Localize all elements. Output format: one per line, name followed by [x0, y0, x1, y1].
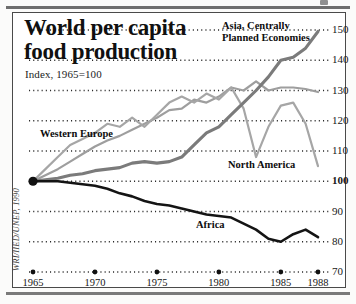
series-label-western-europe: Western Europe: [40, 128, 113, 140]
chart-subtitle: Index, 1965=100: [25, 68, 102, 80]
chart-title-line-2: food production: [24, 40, 234, 64]
x-tick-label-1988: 1988: [308, 277, 329, 288]
top-smudge-icon: [320, 0, 328, 5]
chart-title: World per capita food production: [24, 16, 234, 64]
x-tick-label-1975: 1975: [146, 277, 167, 288]
x-tick-label-1980: 1980: [208, 277, 229, 288]
bottom-divider-rule: [6, 292, 350, 295]
y-tick-label-70: 70: [332, 265, 343, 277]
y-tick-label-90: 90: [332, 205, 343, 217]
y-tick-label-110: 110: [332, 144, 348, 156]
series-label-asia: Asia, Centrally Planned Economies: [222, 20, 318, 43]
chart-title-line-1: World per capita: [24, 16, 234, 40]
y-tick-label-130: 130: [332, 84, 349, 96]
source-credit: WRI/IIED/UNEP, 1990: [11, 195, 21, 271]
y-tick-label-80: 80: [332, 235, 343, 247]
x-tick-label-1965: 1965: [23, 277, 44, 288]
y-tick-label-120: 120: [332, 114, 349, 126]
x-tick-label-1985: 1985: [270, 277, 291, 288]
y-tick-label-140: 140: [332, 53, 349, 65]
top-divider-rule: [6, 6, 350, 9]
y-tick-label-150: 150: [332, 23, 349, 35]
x-tick-label-1970: 1970: [84, 277, 105, 288]
series-label-africa: Africa: [196, 219, 225, 231]
y-tick-label-100: 100: [332, 174, 349, 186]
figure-root: World per capita food production Index, …: [0, 0, 356, 304]
series-label-north-america: North America: [228, 159, 295, 171]
